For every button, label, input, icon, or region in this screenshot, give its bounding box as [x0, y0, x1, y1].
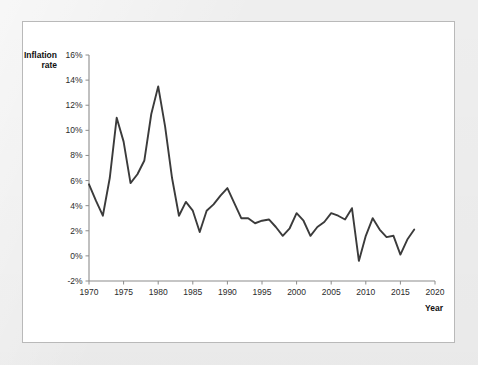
x-axis-tick-labels: 1970197519801985199019952000200520102015… — [80, 287, 445, 297]
y-tick-label: 4% — [70, 201, 83, 211]
x-tick-label: 2015 — [391, 287, 410, 297]
x-tick-label: 1975 — [114, 287, 133, 297]
inflation-rate-series — [89, 86, 414, 261]
x-axis-title: Year — [425, 303, 444, 313]
y-tick-label: 14% — [65, 75, 82, 85]
y-axis-title-line-2: rate — [41, 60, 57, 70]
x-tick-label: 2010 — [356, 287, 375, 297]
chart-panel: -2%0%2%4%6%8%10%12%14%16% 19701975198019… — [22, 21, 455, 343]
x-tick-label: 1995 — [253, 287, 272, 297]
screenshot-root: -2%0%2%4%6%8%10%12%14%16% 19701975198019… — [0, 0, 478, 365]
y-tick-label: 8% — [70, 150, 83, 160]
x-tick-label: 2000 — [287, 287, 306, 297]
y-tick-label: 0% — [70, 251, 83, 261]
y-tick-label: -2% — [67, 276, 83, 286]
x-tick-label: 1985 — [183, 287, 202, 297]
x-tick-label: 2005 — [322, 287, 341, 297]
y-tick-label: 2% — [70, 226, 83, 236]
x-tick-label: 1990 — [218, 287, 237, 297]
y-tick-label: 12% — [65, 100, 82, 110]
y-tick-label: 16% — [65, 50, 82, 60]
y-axis-title-line-1: Inflation — [24, 50, 57, 60]
x-tick-label: 1970 — [80, 287, 99, 297]
axis-tick-marks — [86, 55, 436, 285]
y-axis-tick-labels: -2%0%2%4%6%8%10%12%14%16% — [65, 50, 82, 286]
inflation-line-chart: -2%0%2%4%6%8%10%12%14%16% 19701975198019… — [23, 22, 454, 342]
y-tick-label: 6% — [70, 176, 83, 186]
x-tick-label: 2020 — [426, 287, 445, 297]
y-tick-label: 10% — [65, 125, 82, 135]
x-tick-label: 1980 — [149, 287, 168, 297]
